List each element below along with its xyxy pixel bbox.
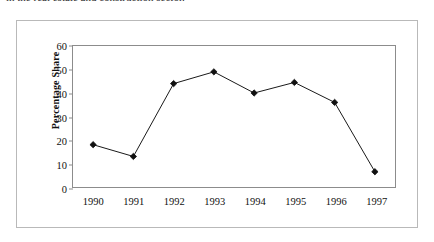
y-tick-mark — [69, 189, 73, 190]
y-tick-mark — [69, 117, 73, 118]
x-tick-label: 1996 — [326, 196, 347, 207]
x-tick-label: 1994 — [245, 196, 266, 207]
y-tick-label: 40 — [57, 88, 68, 99]
data-point-marker — [211, 69, 217, 75]
line-chart-svg — [73, 46, 395, 187]
y-tick-label: 60 — [57, 41, 68, 52]
data-point-marker — [372, 169, 378, 175]
caption-text: in the real estate and construction sect… — [6, 0, 185, 3]
y-tick-mark — [69, 69, 73, 70]
y-tick-mark — [69, 93, 73, 94]
y-tick-label: 20 — [57, 136, 68, 147]
y-tick-mark — [69, 46, 73, 47]
data-point-marker — [170, 80, 176, 86]
x-tick-label: 1997 — [366, 196, 387, 207]
x-tick-label: 1990 — [83, 196, 104, 207]
plot-area: 0102030405060199019911992199319941995199… — [72, 45, 396, 188]
x-tick-label: 1995 — [285, 196, 306, 207]
figure-frame: Percentage Share 01020304050601990199119… — [16, 20, 418, 228]
data-point-marker — [291, 79, 297, 85]
y-tick-label: 10 — [57, 160, 68, 171]
x-tick-label: 1991 — [123, 196, 144, 207]
caption-strip: in the real estate and construction sect… — [0, 0, 434, 9]
x-tick-label: 1993 — [204, 196, 225, 207]
y-tick-label: 30 — [57, 112, 68, 123]
y-tick-mark — [69, 165, 73, 166]
data-point-marker — [90, 142, 96, 148]
x-tick-label: 1992 — [164, 196, 185, 207]
data-point-marker — [251, 90, 257, 96]
y-tick-mark — [69, 141, 73, 142]
data-point-marker — [331, 99, 337, 105]
data-point-marker — [130, 153, 136, 159]
y-tick-label: 50 — [57, 64, 68, 75]
y-tick-label: 0 — [62, 184, 67, 195]
